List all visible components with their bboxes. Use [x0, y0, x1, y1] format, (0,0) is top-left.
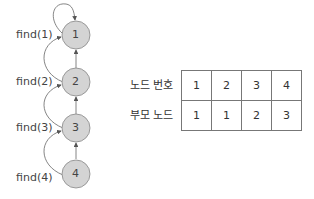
- node-4-label: 4: [72, 168, 79, 180]
- table-cell: 2: [212, 71, 242, 101]
- node-2-label: 2: [72, 76, 79, 88]
- find-4-label: find(4): [16, 172, 52, 184]
- table-cell: 2: [242, 101, 272, 131]
- table-cell: 4: [272, 71, 302, 101]
- parent-table: 1 2 3 4 1 1 2 3: [181, 70, 302, 131]
- table-cell: 1: [212, 101, 242, 131]
- find-2-label: find(2): [16, 76, 52, 88]
- node-3-label: 3: [72, 122, 79, 134]
- table-cell: 1: [182, 71, 212, 101]
- table-row: 1 1 2 3: [182, 101, 302, 131]
- find-arc-4-to-3: [44, 131, 63, 175]
- table-cell: 3: [272, 101, 302, 131]
- row-header-parent-node: 부모 노드: [130, 110, 174, 122]
- row-header-node-number: 노드 번호: [130, 80, 174, 92]
- table-cell: 1: [182, 101, 212, 131]
- node-1-label: 1: [72, 29, 79, 41]
- find-1-label: find(1): [16, 29, 52, 41]
- table-row: 1 2 3 4: [182, 71, 302, 101]
- find-3-label: find(3): [16, 122, 52, 134]
- table-cell: 3: [242, 71, 272, 101]
